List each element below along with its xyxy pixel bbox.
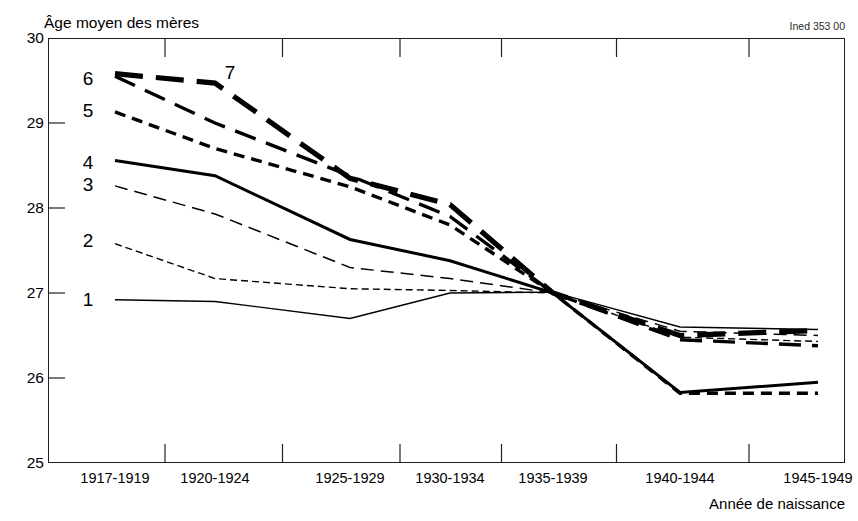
series-line-5: [115, 112, 818, 393]
series-line-3: [115, 186, 818, 336]
series-line-6: [115, 76, 818, 345]
series-line-1: [115, 292, 818, 329]
series-line-4: [115, 160, 818, 392]
chart-figure: Âge moyen des mères Ined 353 00 Année de…: [0, 0, 858, 521]
series-line-7: [115, 74, 818, 336]
plot-lines: [0, 0, 858, 521]
